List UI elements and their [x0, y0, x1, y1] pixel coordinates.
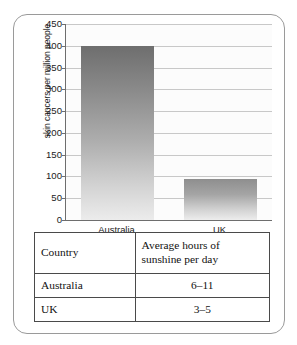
y-tick-label: 400 [46, 41, 62, 51]
table-header-sunshine: Average hours of sunshine per day [135, 233, 269, 274]
y-tick-label: 150 [46, 150, 62, 160]
table-row: Australia 6–11 [35, 274, 270, 298]
bar-australia [81, 46, 153, 220]
table-header-row: Country Average hours of sunshine per da… [35, 233, 270, 274]
table-header-sunshine-line1: Average hours of [142, 239, 220, 251]
y-tick-label: 200 [46, 128, 62, 138]
y-tick-label: 300 [46, 85, 62, 95]
table-header-country: Country [35, 233, 136, 274]
table-cell-sunshine: 3–5 [135, 298, 269, 322]
sunshine-table-wrapper: Country Average hours of sunshine per da… [34, 232, 270, 322]
table-cell-country: UK [35, 298, 136, 322]
sunshine-table: Country Average hours of sunshine per da… [34, 232, 270, 322]
table-row: UK 3–5 [35, 298, 270, 322]
y-tickmark [62, 220, 66, 221]
bar-uk [184, 179, 256, 220]
y-tick-label: 350 [46, 63, 62, 73]
table-cell-sunshine: 6–11 [135, 274, 269, 298]
plot-area [65, 24, 272, 221]
y-tick-label: 0 [57, 215, 62, 225]
y-tick-label: 250 [46, 106, 62, 116]
bars-layer [66, 24, 272, 220]
y-axis-tick-labels: 450 400 350 300 250 200 150 100 50 0 [36, 24, 62, 220]
y-tick-label: 100 [46, 172, 62, 182]
y-tick-label: 50 [51, 193, 62, 203]
bar-chart: skin cancers per million people 450 400 … [13, 14, 285, 226]
table-cell-country: Australia [35, 274, 136, 298]
y-tick-label: 450 [46, 19, 62, 29]
table-header-sunshine-line2: sunshine per day [142, 253, 219, 265]
